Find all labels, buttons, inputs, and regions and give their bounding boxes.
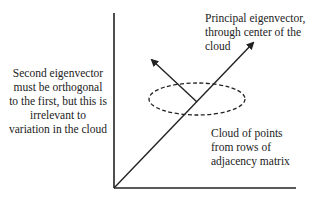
cloud-label: Cloud of points from rows of adjacency m… — [211, 126, 290, 168]
second-eigenvector-arrow — [152, 60, 197, 102]
label-line: cloud — [205, 39, 305, 53]
label-line: to the first, but this is — [2, 94, 114, 108]
label-line: through center of the — [205, 25, 305, 39]
label-line: irrelevant to — [2, 108, 114, 122]
principal-eigenvector-label: Principal eigenvector, through center of… — [205, 11, 305, 53]
label-line: adjacency matrix — [211, 154, 290, 168]
label-line: Cloud of points — [211, 126, 290, 140]
label-line: from rows of — [211, 140, 290, 154]
label-line: Second eigenvector — [2, 66, 114, 80]
label-line: Principal eigenvector, — [205, 11, 305, 25]
second-eigenvector-label: Second eigenvector must be orthogonal to… — [2, 66, 114, 136]
label-line: must be orthogonal — [2, 80, 114, 94]
cloud-ellipse — [149, 83, 245, 115]
label-line: variation in the cloud — [2, 122, 114, 136]
